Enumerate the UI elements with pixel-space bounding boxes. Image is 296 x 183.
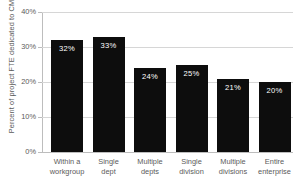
x-axis-category-label: Entireenterprise xyxy=(251,157,296,177)
bar-value-label: 21% xyxy=(217,84,249,92)
bar: 32% xyxy=(51,40,83,152)
gridline-40 xyxy=(42,12,293,13)
bar-chart: Percent of project FTE dedicated to CM 4… xyxy=(0,0,295,183)
bar: 24% xyxy=(134,68,166,152)
y-tick-label-20: 20% xyxy=(0,78,36,86)
y-tick-label-10: 10% xyxy=(0,113,36,121)
bar-value-label: 20% xyxy=(259,87,291,95)
gridline-0 xyxy=(42,152,293,153)
bar: 20% xyxy=(259,82,291,152)
bar-value-label: 24% xyxy=(134,73,166,81)
bar-value-label: 32% xyxy=(51,45,83,53)
bar: 33% xyxy=(93,37,125,153)
y-tick-label-0: 0% xyxy=(0,148,36,156)
y-tick-label-40: 40% xyxy=(0,8,36,16)
y-tick-label-30: 30% xyxy=(0,43,36,51)
bar: 25% xyxy=(176,65,208,153)
bar: 21% xyxy=(217,79,249,153)
plot-area: 32%33%24%25%21%20% xyxy=(42,12,293,152)
chart-title-cropped xyxy=(0,0,295,3)
bar-value-label: 25% xyxy=(176,70,208,78)
bar-value-label: 33% xyxy=(93,42,125,50)
